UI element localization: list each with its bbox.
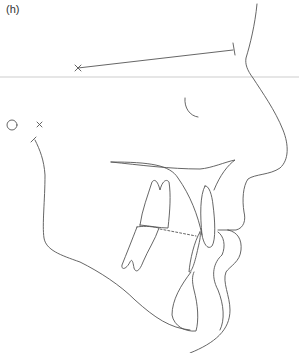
lower-lip-inner	[214, 232, 224, 330]
upper-incisor	[201, 186, 215, 247]
lower-incisor	[189, 232, 200, 272]
tracing-drawing	[0, 0, 299, 353]
nasion-tick	[233, 43, 235, 55]
orbitale-marker	[37, 122, 42, 127]
soft-tissue-profile	[190, 4, 287, 353]
symphysis	[172, 272, 198, 331]
maxilla-curve	[111, 162, 202, 235]
mandible-outline	[31, 137, 190, 330]
upper-molar	[140, 180, 170, 228]
palate	[111, 160, 235, 190]
lower-molar	[122, 226, 159, 271]
porion-circle	[7, 120, 17, 130]
orbit-curve	[185, 98, 198, 117]
sn-line	[78, 50, 233, 68]
occlusal-line	[160, 229, 196, 236]
